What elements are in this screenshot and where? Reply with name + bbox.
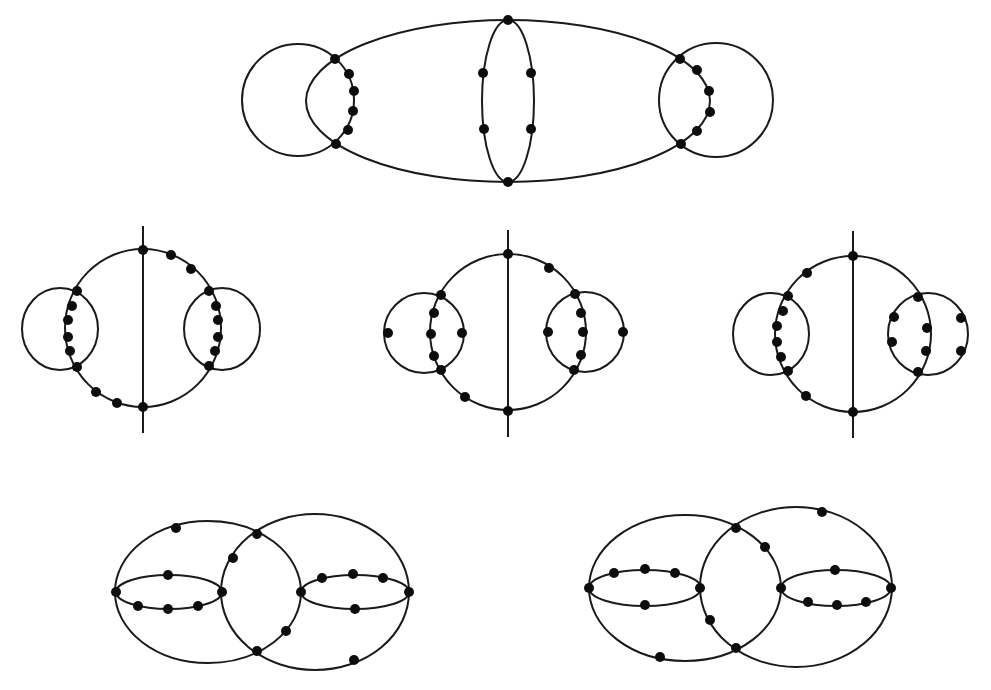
vertex-dot [252, 646, 262, 656]
vertex-dot [675, 54, 685, 64]
vertex-dot [783, 366, 793, 376]
vertex-dot [317, 573, 327, 583]
vertex-dot [704, 86, 714, 96]
vertex-dot [479, 124, 489, 134]
vertex-dot [91, 387, 101, 397]
vertex-dot [731, 523, 741, 533]
vertex-dot [692, 126, 702, 136]
vertex-dot [429, 351, 439, 361]
vertex-dot [457, 328, 467, 338]
vertex-dot [705, 615, 715, 625]
vertex-dot [72, 286, 82, 296]
vertex-dot [429, 308, 439, 318]
vertex-dot [778, 306, 788, 316]
vertex-dot [544, 263, 554, 273]
vertex-dot [578, 327, 588, 337]
vertex-dot [503, 15, 513, 25]
vertex-dot [436, 365, 446, 375]
vertex-dot [349, 655, 359, 665]
vertex-dot [830, 565, 840, 575]
vertex-dot [111, 587, 121, 597]
vertex-dot [913, 292, 923, 302]
vertex-dot [670, 568, 680, 578]
vertex-dot [72, 362, 82, 372]
vertex-dot [344, 69, 354, 79]
vertex-dot [802, 268, 812, 278]
vertex-dot [252, 529, 262, 539]
vertex-dot [478, 68, 488, 78]
vertex-dot [204, 286, 214, 296]
vertex-dot [204, 361, 214, 371]
vertex-dot [848, 251, 858, 261]
vertex-dot [570, 289, 580, 299]
feynman-diagram-figure [0, 0, 991, 690]
vertex-dot [378, 573, 388, 583]
vertex-dot [776, 352, 786, 362]
vertex-dot [618, 327, 628, 337]
vertex-dot [801, 391, 811, 401]
diagram-canvas [0, 0, 991, 690]
vertex-dot [210, 346, 220, 356]
vertex-dot [776, 583, 786, 593]
vertex-dot [217, 587, 227, 597]
vertex-dot [503, 249, 513, 259]
vertex-dot [526, 124, 536, 134]
vertex-dot [772, 337, 782, 347]
vertex-dot [731, 643, 741, 653]
vertex-dot [350, 604, 360, 614]
vertex-dot [436, 290, 446, 300]
vertex-dot [63, 315, 73, 325]
vertex-dot [331, 139, 341, 149]
background [0, 0, 991, 690]
vertex-dot [163, 604, 173, 614]
vertex-dot [186, 264, 196, 274]
vertex-dot [213, 315, 223, 325]
vertex-dot [609, 568, 619, 578]
vertex-dot [576, 308, 586, 318]
vertex-dot [655, 652, 665, 662]
vertex-dot [922, 323, 932, 333]
vertex-dot [956, 346, 966, 356]
vertex-dot [296, 587, 306, 597]
vertex-dot [228, 553, 238, 563]
vertex-dot [695, 583, 705, 593]
vertex-dot [803, 597, 813, 607]
vertex-dot [956, 313, 966, 323]
vertex-dot [166, 250, 176, 260]
vertex-dot [772, 321, 782, 331]
vertex-dot [576, 350, 586, 360]
vertex-dot [171, 523, 181, 533]
vertex-dot [281, 626, 291, 636]
vertex-dot [138, 402, 148, 412]
vertex-dot [213, 332, 223, 342]
vertex-dot [692, 65, 702, 75]
vertex-dot [426, 329, 436, 339]
vertex-dot [889, 312, 899, 322]
vertex-dot [330, 54, 340, 64]
vertex-dot [640, 600, 650, 610]
vertex-dot [543, 327, 553, 337]
vertex-dot [503, 406, 513, 416]
vertex-dot [760, 542, 770, 552]
vertex-dot [783, 291, 793, 301]
vertex-dot [193, 601, 203, 611]
vertex-dot [584, 583, 594, 593]
vertex-dot [848, 407, 858, 417]
vertex-dot [65, 346, 75, 356]
vertex-dot [63, 332, 73, 342]
vertex-dot [67, 301, 77, 311]
vertex-dot [526, 68, 536, 78]
vertex-dot [886, 583, 896, 593]
vertex-dot [211, 301, 221, 311]
vertex-dot [569, 365, 579, 375]
vertex-dot [349, 86, 359, 96]
vertex-dot [861, 597, 871, 607]
vertex-dot [348, 106, 358, 116]
vertex-dot [163, 570, 173, 580]
vertex-dot [676, 139, 686, 149]
vertex-dot [383, 328, 393, 338]
vertex-dot [133, 601, 143, 611]
vertex-dot [503, 177, 513, 187]
vertex-dot [138, 245, 148, 255]
vertex-dot [817, 507, 827, 517]
